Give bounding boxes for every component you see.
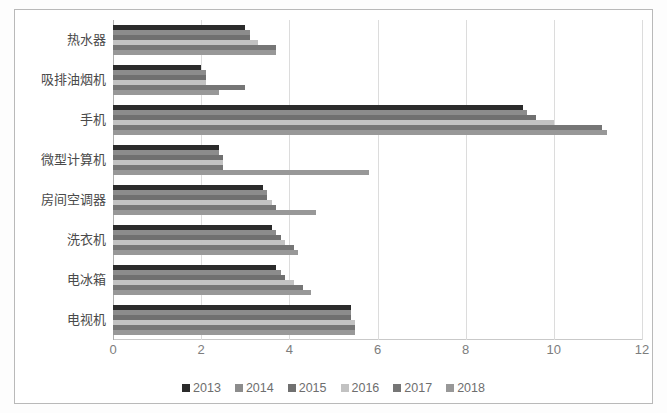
- bar: [113, 50, 276, 55]
- bar-group: [113, 225, 642, 255]
- plot-area: [113, 20, 642, 340]
- category-label: 房间空调器: [41, 193, 106, 206]
- category-label: 电视机: [67, 313, 106, 326]
- category-label: 热水器: [67, 33, 106, 46]
- legend-item: 2017: [393, 382, 432, 395]
- bar-group: [113, 305, 642, 335]
- legend-swatch-icon: [446, 384, 454, 392]
- legend-item: 2013: [182, 382, 221, 395]
- category-axis-labels: 热水器吸排油烟机手机微型计算机房间空调器洗衣机电冰箱电视机: [0, 20, 106, 340]
- legend-item: 2015: [288, 382, 327, 395]
- x-axis-tick-label: 10: [547, 343, 561, 356]
- legend-swatch-icon: [288, 384, 296, 392]
- bar: [113, 90, 219, 95]
- x-axis-tick-label: 6: [374, 343, 381, 356]
- bar-group: [113, 145, 642, 175]
- legend-swatch-icon: [341, 384, 349, 392]
- bar-group: [113, 265, 642, 295]
- legend-swatch-icon: [182, 384, 190, 392]
- chart-legend: 201320142015201620172018: [0, 382, 667, 395]
- bar: [113, 170, 369, 175]
- x-axis-tick-label: 8: [462, 343, 469, 356]
- legend-item: 2014: [235, 382, 274, 395]
- legend-label: 2015: [299, 382, 327, 395]
- legend-item: 2018: [446, 382, 485, 395]
- legend-label: 2013: [193, 382, 221, 395]
- x-axis-tick-label: 4: [286, 343, 293, 356]
- category-label: 洗衣机: [67, 233, 106, 246]
- legend-swatch-icon: [235, 384, 243, 392]
- bar-group: [113, 105, 642, 135]
- bar-group: [113, 185, 642, 215]
- bar: [113, 250, 298, 255]
- bar-group: [113, 65, 642, 95]
- legend-label: 2016: [352, 382, 380, 395]
- legend-item: 2016: [341, 382, 380, 395]
- category-label: 电冰箱: [67, 273, 106, 286]
- category-label: 微型计算机: [41, 153, 106, 166]
- legend-label: 2017: [404, 382, 432, 395]
- bar: [113, 210, 316, 215]
- category-label: 吸排油烟机: [41, 73, 106, 86]
- x-axis-tick-label: 12: [635, 343, 649, 356]
- bar: [113, 290, 311, 295]
- gridline: [642, 20, 643, 340]
- bar-chart: 热水器吸排油烟机手机微型计算机房间空调器洗衣机电冰箱电视机 2013201420…: [0, 0, 667, 413]
- x-axis-tick-label: 0: [109, 343, 116, 356]
- legend-label: 2018: [457, 382, 485, 395]
- legend-label: 2014: [246, 382, 274, 395]
- x-axis-tick-label: 2: [198, 343, 205, 356]
- bar: [113, 330, 355, 335]
- bar-group: [113, 25, 642, 55]
- bar: [113, 130, 607, 135]
- category-label: 手机: [80, 113, 106, 126]
- legend-swatch-icon: [393, 384, 401, 392]
